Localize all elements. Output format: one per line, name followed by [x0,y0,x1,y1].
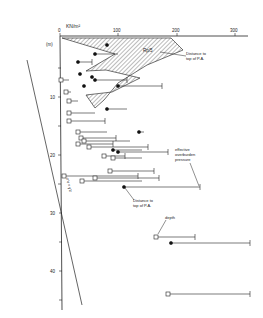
x-tick-300: 300 [230,28,238,33]
annotation-distance-2-line2: top of P.A. [133,203,151,208]
y-tick-10: 10 [50,95,56,100]
series-open-squares [59,78,250,297]
series-filled-circles [76,43,250,246]
axes: KN/m² 0 100 200 300 (m) 10 20 30 40 [46,23,248,310]
figure-chart: KN/m² 0 100 200 300 (m) 10 20 30 40 Rp/5… [0,0,263,318]
x-tick-200: 200 [172,28,180,33]
annotation-depth: depth [165,215,175,220]
x-tick-0: 0 [58,28,61,33]
y-tick-20: 20 [50,153,56,158]
x-unit-label: KN/m² [66,23,81,29]
y-tick-30: 30 [50,211,56,216]
x-tick-100: 100 [113,28,121,33]
y-axis [60,36,62,310]
envelope-label: Rp/5 [143,48,153,53]
annotation-effective-line3: pressure [175,157,191,162]
annotation-distance-1-line2: top of P.A. [186,56,204,61]
y-tick-40: 40 [50,269,56,274]
sloped-line-label: σ'v = γ'z [65,177,73,192]
y-unit-label: (m) [46,42,53,47]
